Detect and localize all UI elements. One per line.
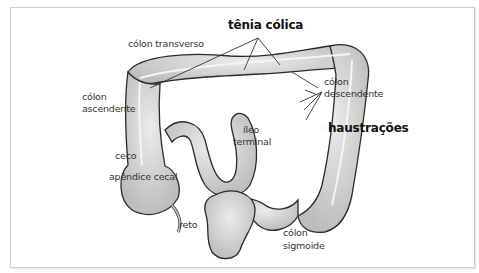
label-colon-sigmoide-line1: cólon bbox=[283, 227, 308, 238]
label-colon-ascendente-line1: cólon bbox=[82, 91, 107, 102]
rectum bbox=[205, 191, 255, 259]
label-tenia-colica: tênia cólica bbox=[228, 20, 303, 31]
label-ceco: ceco bbox=[115, 150, 136, 161]
label-colon-sigmoide-line2: sigmoide bbox=[283, 240, 325, 251]
label-reto: reto bbox=[179, 219, 197, 230]
label-colon-transverso: cólon transverso bbox=[128, 38, 204, 49]
label-apendice-cecal: apêndice cecal bbox=[109, 171, 177, 182]
label-colon-descendente-line2: descendente bbox=[324, 88, 383, 99]
label-ileo-line2: terminal bbox=[233, 136, 271, 147]
descending-colon bbox=[298, 45, 369, 233]
ascending-colon bbox=[121, 72, 179, 214]
label-colon-descendente-line1: cólon bbox=[324, 76, 349, 87]
label-haustracoes: haustrações bbox=[328, 123, 409, 134]
label-colon-ascendente-line2: ascendente bbox=[82, 103, 135, 114]
label-ileo-line1: íleo bbox=[243, 124, 259, 135]
